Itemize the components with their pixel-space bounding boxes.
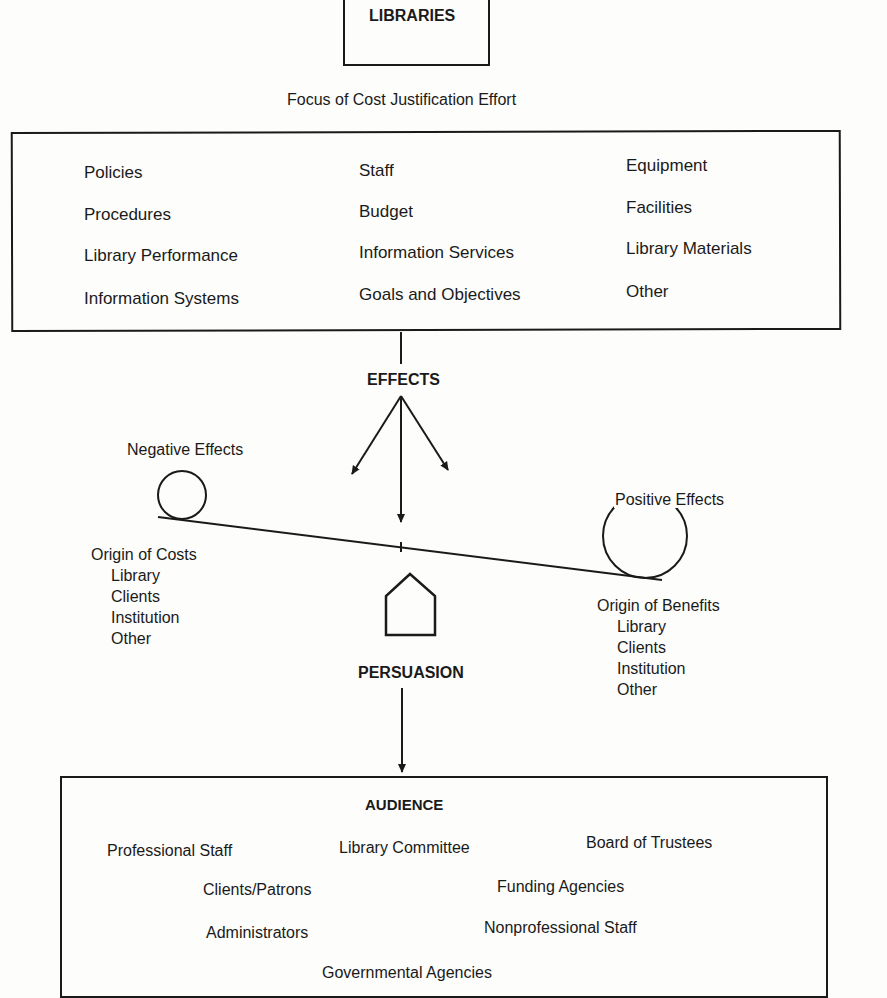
audience-item: Administrators: [206, 925, 308, 941]
focus-item: Information Services: [359, 244, 514, 261]
focus-item: Information Systems: [84, 290, 239, 307]
focus-item: Library Materials: [626, 240, 752, 257]
libraries-title: LIBRARIES: [369, 8, 455, 24]
origin-costs-title: Origin of Costs: [91, 544, 197, 565]
arrow-right: [401, 396, 448, 470]
origin-costs-item: Library: [91, 565, 197, 586]
focus-item: Procedures: [84, 206, 171, 223]
origin-costs-item: Institution: [91, 607, 197, 628]
audience-item: Funding Agencies: [497, 879, 624, 895]
origin-of-benefits: Origin of Benefits Library Clients Insti…: [597, 595, 720, 700]
audience-item: Library Committee: [339, 840, 470, 856]
focus-item: Library Performance: [84, 247, 238, 264]
audience-item: Nonprofessional Staff: [484, 920, 637, 936]
origin-benefits-item: Institution: [597, 658, 720, 679]
balance-beam: [158, 517, 662, 580]
arrow-left: [352, 396, 401, 474]
focus-item: Facilities: [626, 199, 692, 216]
focus-subtitle: Focus of Cost Justification Effort: [287, 92, 516, 108]
audience-item: Clients/Patrons: [203, 882, 312, 898]
audience-item: Board of Trustees: [586, 835, 712, 851]
positive-effects-label: Positive Effects: [614, 492, 725, 508]
origin-of-costs: Origin of Costs Library Clients Institut…: [91, 544, 197, 649]
focus-item: Goals and Objectives: [359, 286, 521, 303]
origin-costs-item: Clients: [91, 586, 197, 607]
origin-benefits-title: Origin of Benefits: [597, 595, 720, 616]
effects-label: EFFECTS: [367, 372, 440, 388]
libraries-box: LIBRARIES: [343, 0, 490, 66]
focus-item: Other: [626, 283, 669, 300]
audience-item: Professional Staff: [107, 843, 232, 859]
focus-item: Policies: [84, 164, 143, 181]
focus-item: Staff: [359, 162, 394, 179]
focus-item: Equipment: [626, 157, 707, 174]
origin-benefits-item: Library: [597, 616, 720, 637]
fulcrum: [386, 574, 435, 635]
audience-title: AUDIENCE: [365, 797, 443, 812]
focus-item: Budget: [359, 203, 413, 220]
persuasion-label: PERSUASION: [358, 665, 464, 681]
origin-benefits-item: Clients: [597, 637, 720, 658]
negative-effects-circle: [158, 471, 206, 519]
origin-costs-item: Other: [91, 628, 197, 649]
origin-benefits-item: Other: [597, 679, 720, 700]
audience-item: Governmental Agencies: [322, 965, 492, 981]
negative-effects-label: Negative Effects: [127, 442, 243, 458]
